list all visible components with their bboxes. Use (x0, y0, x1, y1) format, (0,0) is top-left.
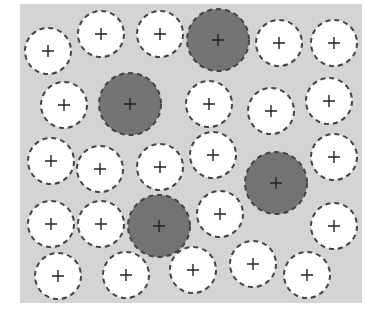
empty-circle (25, 28, 71, 74)
empty-circle (41, 82, 87, 128)
empty-circle (35, 253, 81, 299)
empty-circle (186, 81, 232, 127)
empty-circle (230, 241, 276, 287)
empty-circle (256, 20, 302, 66)
empty-circle (190, 132, 236, 178)
empty-circle (248, 88, 294, 134)
circle-packing-diagram (0, 0, 365, 315)
empty-circle (284, 252, 330, 298)
filled-circle (99, 73, 161, 135)
empty-circle (28, 201, 74, 247)
empty-circle (103, 252, 149, 298)
empty-circle (78, 201, 124, 247)
filled-circle (187, 9, 249, 71)
empty-circle (306, 78, 352, 124)
empty-circle (137, 11, 183, 57)
empty-circle (78, 11, 124, 57)
filled-circle (245, 152, 307, 214)
diagram-canvas (0, 0, 365, 315)
empty-circle (311, 134, 357, 180)
empty-circle (311, 203, 357, 249)
empty-circle (28, 138, 74, 184)
filled-circle (128, 195, 190, 257)
empty-circle (311, 20, 357, 66)
empty-circle (197, 191, 243, 237)
empty-circle (77, 146, 123, 192)
empty-circle (137, 144, 183, 190)
empty-circle (170, 247, 216, 293)
